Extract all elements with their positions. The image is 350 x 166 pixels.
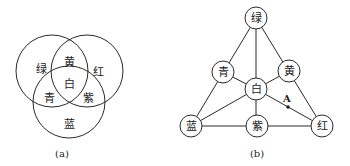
node-label-red: 红 [317, 120, 328, 133]
venn-label-blue: 蓝 [64, 118, 75, 131]
color-diagrams: 绿 黄 红 白 青 紫 蓝 (a) 绿 青 黄 白 蓝 紫 红 A (b) [0, 0, 350, 166]
node-label-magenta: 紫 [252, 120, 263, 133]
venn-label-green: 绿 [36, 62, 47, 76]
venn-label-white: 白 [64, 77, 75, 91]
point-a-label: A [282, 93, 291, 104]
node-label-blue: 蓝 [186, 120, 197, 133]
venn-labels: 绿 黄 红 白 青 紫 蓝 [36, 55, 104, 131]
venn-label-cyan: 青 [44, 92, 55, 105]
venn-label-yellow: 黄 [64, 55, 75, 69]
graph-edges [191, 18, 322, 126]
node-label-white: 白 [251, 82, 262, 96]
node-label-green: 绿 [251, 11, 262, 25]
caption-a: (a) [55, 148, 69, 159]
point-a-dot [286, 105, 290, 109]
node-label-yellow: 黄 [284, 64, 295, 78]
venn-label-red: 红 [93, 66, 104, 79]
venn-label-magenta: 紫 [83, 92, 94, 105]
caption-b: (b) [250, 148, 264, 159]
node-label-cyan: 青 [218, 66, 229, 79]
